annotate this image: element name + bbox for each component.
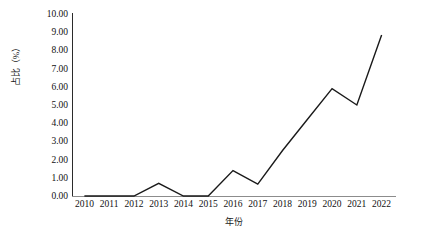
- plot-area: [72, 14, 394, 196]
- y-axis-tick: 1.00: [22, 173, 68, 183]
- y-axis-tick: 2.00: [22, 155, 68, 165]
- y-axis-tick: 10.00: [22, 9, 68, 19]
- y-axis-tick: 3.00: [22, 136, 68, 146]
- series-line: [72, 14, 394, 196]
- y-axis-tick: 4.00: [22, 118, 68, 128]
- x-axis-title: 年份: [72, 215, 396, 228]
- y-axis-tick: 5.00: [22, 100, 68, 110]
- y-axis-tick: 7.00: [22, 64, 68, 74]
- y-axis-tick: 8.00: [22, 45, 68, 55]
- x-axis-tick: 2022: [360, 199, 404, 209]
- y-axis-tick-labels: 10.009.008.007.006.005.004.003.002.001.0…: [22, 0, 68, 236]
- y-axis-tick: 6.00: [22, 82, 68, 92]
- line-chart: 占比（%） 10.009.008.007.006.005.004.003.002…: [0, 0, 426, 236]
- y-axis-tick: 9.00: [22, 27, 68, 37]
- y-axis-tick: 0.00: [22, 191, 68, 201]
- x-axis-tick-labels: 2010201120122013201420152016201720182019…: [72, 199, 396, 215]
- y-axis-title: 占比（%）: [9, 20, 22, 110]
